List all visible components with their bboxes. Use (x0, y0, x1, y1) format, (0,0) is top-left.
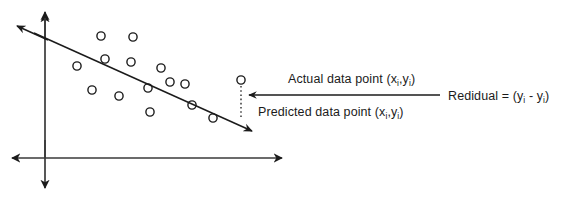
residual-formula-label: Redidual = (yi - yi) (448, 89, 549, 103)
actual-data-point-label: Actual data point (xi,yi) (288, 72, 415, 86)
residual-label-mid: - y (525, 89, 543, 103)
actual-label-prefix: Actual data point (x (288, 72, 397, 86)
actual-label-mid: ,y (399, 72, 409, 86)
residual-label-suffix: ) (545, 89, 549, 103)
predicted-label-prefix: Predicted data point (x (258, 105, 385, 119)
residual-label-prefix: Redidual = (y (448, 89, 523, 103)
predicted-label-mid: ,y (387, 105, 397, 119)
residual-label-sub-2: i (543, 95, 545, 105)
actual-label-sub-x: i (397, 78, 399, 88)
actual-label-sub-y: i (409, 78, 411, 88)
predicted-data-point-label: Predicted data point (xi,yi) (258, 105, 404, 119)
predicted-label-suffix: ) (399, 105, 403, 119)
actual-label-suffix: ) (411, 72, 415, 86)
